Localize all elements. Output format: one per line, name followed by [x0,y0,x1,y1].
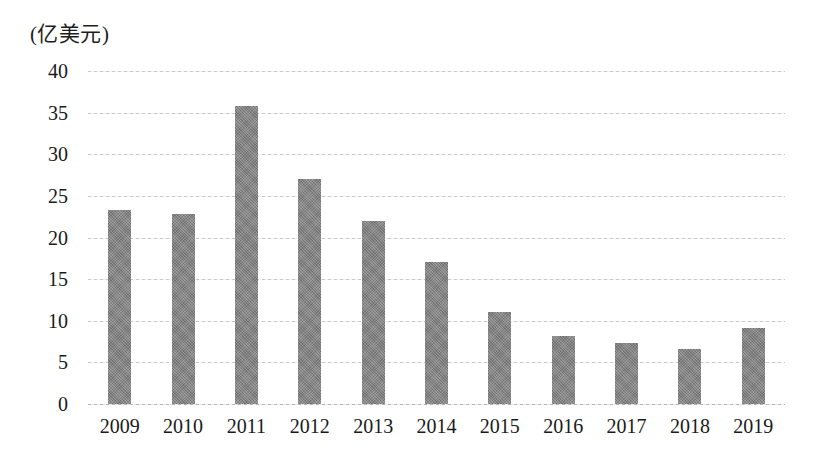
x-axis-tick-label: 2014 [402,412,472,440]
x-axis-tick-label: 2018 [655,412,725,440]
x-axis-tick-label: 2011 [211,412,281,440]
x-axis-tick-label: 2017 [592,412,662,440]
x-axis-tick-label: 2013 [338,412,408,440]
x-axis-tick-label: 2009 [85,412,155,440]
bar-2015 [488,312,511,404]
y-axis-tick-label: 35 [24,103,68,123]
y-axis-tick-labels: 4035302520151050 [20,71,68,404]
y-axis-tick-label: 15 [24,269,68,289]
bar-2018 [678,349,701,404]
gridline [88,404,785,405]
y-axis-tick-label: 5 [24,352,68,372]
y-axis-unit-label: (亿美元) [30,18,110,50]
gridline [88,113,785,114]
x-axis-tick-label: 2015 [465,412,535,440]
y-axis-tick-label: 20 [24,228,68,248]
bar-chart-figure: (亿美元) 4035302520151050 20092010201120122… [0,0,826,473]
x-axis-tick-labels: 2009201020112012201320142015201620172018… [88,412,785,452]
x-axis-tick-label: 2016 [528,412,598,440]
bar-2017 [615,343,638,404]
plot-area [88,71,785,404]
gridline [88,154,785,155]
gridline [88,196,785,197]
y-axis-tick-label: 40 [24,61,68,81]
bar-2019 [742,328,765,404]
y-axis-tick-label: 10 [24,311,68,331]
x-axis-tick-label: 2012 [275,412,345,440]
bar-2016 [552,336,575,404]
bar-2011 [235,106,258,404]
x-axis-tick-label: 2010 [148,412,218,440]
bar-2014 [425,262,448,404]
bar-2013 [362,221,385,404]
bar-2009 [108,210,131,404]
gridline [88,71,785,72]
y-axis-tick-label: 25 [24,186,68,206]
y-axis-tick-label: 0 [24,394,68,414]
bar-2012 [298,179,321,404]
y-axis-tick-label: 30 [24,144,68,164]
bar-2010 [172,214,195,404]
x-axis-tick-label: 2019 [718,412,788,440]
